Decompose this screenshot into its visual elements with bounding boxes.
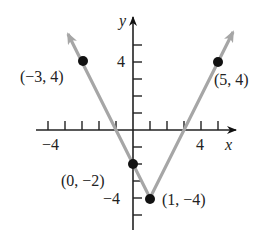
point-label-neg3-4: (−3, 4) (20, 68, 64, 86)
ytick-label-neg4: −4 (103, 190, 120, 207)
y-axis (133, 17, 142, 230)
ytick-label-4: 4 (117, 53, 125, 70)
y-axis-label: y (117, 12, 127, 30)
x-axis-label: x (224, 136, 232, 153)
xtick-label-neg4: −4 (42, 136, 59, 153)
point-label-0-neg2: (0, −2) (61, 172, 105, 190)
point-1-neg4 (145, 194, 155, 204)
point-neg3-4 (78, 56, 88, 66)
point-5-4 (213, 57, 223, 67)
x-axis (36, 121, 236, 130)
point-0-neg2 (128, 159, 138, 169)
xtick-label-4: 4 (196, 136, 204, 153)
point-label-1-neg4: (1, −4) (162, 191, 206, 209)
graph-plot: y x −4 4 4 −4 (−3, 4) (5, 4) (0, −2) (1,… (0, 0, 266, 239)
point-label-5-4: (5, 4) (214, 71, 249, 89)
